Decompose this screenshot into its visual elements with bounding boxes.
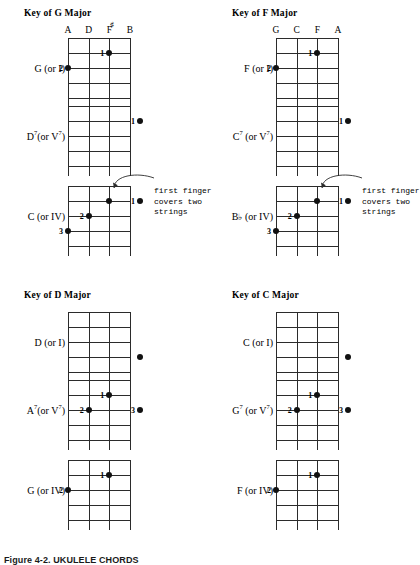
fretboard-grid <box>68 38 130 98</box>
finger-number: 2 <box>59 486 63 495</box>
string-line <box>130 38 131 108</box>
fret-line <box>276 357 338 358</box>
chord-label: C7 (or V7) <box>233 131 273 142</box>
string-line <box>130 380 131 450</box>
fret-line <box>276 490 338 491</box>
nut-line <box>276 38 338 39</box>
chord-diagram-c-major: C (or IV)123first finger covers two stri… <box>68 186 130 246</box>
string-line <box>89 312 90 382</box>
string-line <box>89 186 90 256</box>
fret-line <box>68 395 130 396</box>
fret-line <box>276 520 338 521</box>
string-line <box>89 460 90 530</box>
fret-line <box>68 425 130 426</box>
fret-line <box>276 425 338 426</box>
string-line <box>68 186 69 256</box>
fret-line <box>276 136 338 137</box>
finger-number: 3 <box>59 227 63 236</box>
finger-dot <box>106 472 112 478</box>
fret-line <box>68 475 130 476</box>
barre-annotation-text: first finger covers two strings <box>362 186 420 218</box>
chord-diagram-a7: A7(or V7)123 <box>68 380 130 440</box>
fret-line <box>276 151 338 152</box>
chord-diagram-d7: D7(or V7)1 <box>68 106 130 166</box>
fret-line <box>68 201 130 202</box>
string-line <box>297 380 298 450</box>
chord-diagram-g-major: G (or I)12 <box>68 38 130 98</box>
fret-line <box>276 410 338 411</box>
string-line <box>317 38 318 108</box>
fret-line <box>276 395 338 396</box>
chord-diagram-c7: C7 (or V7)1 <box>276 106 338 166</box>
string-line <box>109 186 110 256</box>
finger-dot <box>106 50 112 56</box>
finger-dot <box>65 487 71 493</box>
finger-dot <box>345 407 351 413</box>
finger-dot <box>314 472 320 478</box>
fret-line <box>276 83 338 84</box>
finger-dot <box>314 50 320 56</box>
figure-caption: Figure 4-2. UKULELE CHORDS <box>4 555 139 565</box>
finger-number: 2 <box>80 406 84 415</box>
fretboard-grid <box>68 106 130 166</box>
finger-dot <box>273 65 279 71</box>
finger-number: 1 <box>308 471 312 480</box>
chord-diagram-g-major-iv: G (or IV)12 <box>68 460 130 520</box>
nut-line <box>68 380 130 381</box>
chord-label: G7 (or V7) <box>232 405 273 416</box>
key-title: Key of G Major <box>24 8 91 18</box>
nut-line <box>68 106 130 107</box>
string-line <box>317 312 318 382</box>
fretboard-grid <box>276 460 338 520</box>
fret-line <box>68 216 130 217</box>
finger-dot <box>65 65 71 71</box>
string-line <box>297 106 298 176</box>
fret-line <box>68 327 130 328</box>
string-name: D <box>85 25 92 35</box>
finger-dot <box>137 407 143 413</box>
fretboard-grid <box>276 106 338 166</box>
string-line <box>68 106 69 176</box>
string-line <box>109 460 110 530</box>
nut-line <box>68 38 130 39</box>
barre-annotation-text: first finger covers two strings <box>154 186 212 218</box>
string-line <box>109 380 110 450</box>
fretboard-grid <box>276 312 338 372</box>
finger-number: 3 <box>339 406 343 415</box>
string-line <box>276 186 277 256</box>
string-line <box>109 38 110 108</box>
key-title: Key of D Major <box>24 290 91 300</box>
fret-line <box>276 372 338 373</box>
finger-number: 2 <box>59 64 63 73</box>
fret-line <box>68 357 130 358</box>
chord-label: D (or I) <box>34 337 65 348</box>
string-line <box>109 106 110 176</box>
string-line <box>317 460 318 530</box>
finger-dot <box>137 198 143 204</box>
finger-number: 1 <box>339 117 343 126</box>
string-line <box>317 186 318 256</box>
finger-dot <box>65 228 71 234</box>
string-line <box>276 460 277 530</box>
fret-line <box>68 83 130 84</box>
finger-number: 1 <box>100 391 104 400</box>
fret-line <box>68 372 130 373</box>
finger-number: 2 <box>267 64 271 73</box>
string-line <box>297 312 298 382</box>
finger-dot <box>314 392 320 398</box>
finger-number: 2 <box>288 406 292 415</box>
string-line <box>317 106 318 176</box>
fret-line <box>68 246 130 247</box>
fret-line <box>68 490 130 491</box>
finger-number: 2 <box>288 212 292 221</box>
string-line <box>317 380 318 450</box>
finger-dot <box>294 407 300 413</box>
finger-dot <box>106 198 112 204</box>
finger-dot <box>273 228 279 234</box>
key-title: Key of F Major <box>232 8 298 18</box>
chord-diagram-f-major-iv: F (or IV)12 <box>276 460 338 520</box>
key-title: Key of C Major <box>232 290 299 300</box>
string-line <box>130 460 131 530</box>
finger-number: 2 <box>267 486 271 495</box>
